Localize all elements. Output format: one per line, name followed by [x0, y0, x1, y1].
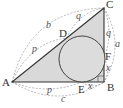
segment-label-q-CF: q: [106, 27, 111, 38]
segment-label-a: a: [115, 38, 120, 49]
point-label-B: B: [107, 81, 114, 93]
point-label-C: C: [106, 0, 113, 10]
segment-label-p-AE: p: [46, 84, 52, 95]
point-label-A: A: [2, 76, 10, 88]
segment-label-p-AD: p: [31, 43, 37, 54]
segment-label-b: b: [46, 19, 51, 30]
point-label-D: D: [59, 27, 67, 39]
segment-label-x-FB: x: [105, 62, 111, 73]
incircle-right-triangle-diagram: A B C D E F b q p q a x x p c: [0, 0, 123, 108]
arc-x-EB: [82, 82, 104, 86]
point-label-F: F: [105, 50, 111, 62]
incircle: [59, 36, 105, 82]
segment-label-x-EB: x: [87, 80, 93, 91]
segment-label-q-CD: q: [76, 10, 81, 21]
point-label-E: E: [78, 83, 85, 95]
segment-label-c: c: [61, 93, 66, 104]
